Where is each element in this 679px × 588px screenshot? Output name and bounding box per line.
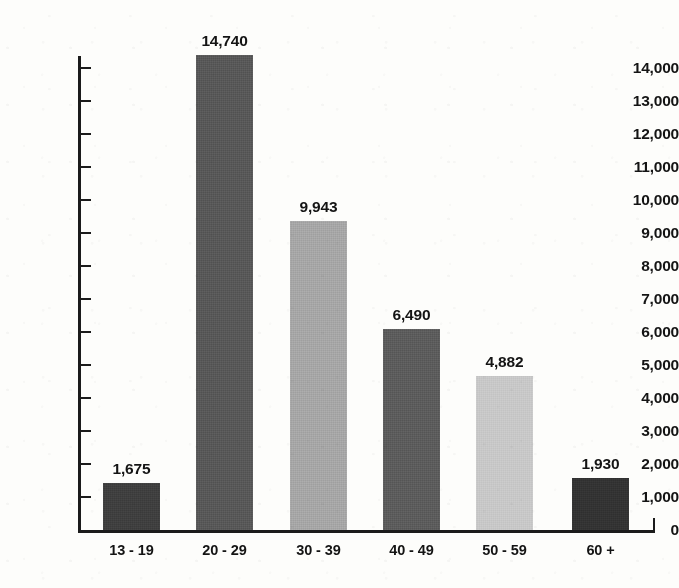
bar-value-label: 14,740	[174, 32, 275, 50]
y-axis-tick-label: 3,000	[609, 422, 679, 440]
y-axis-tick	[80, 265, 91, 267]
y-axis-tick	[80, 298, 91, 300]
bar-texture	[572, 478, 629, 530]
y-axis-tick-label: 9,000	[609, 224, 679, 242]
bar-chart: 01,0002,0003,0004,0005,0006,0007,0008,00…	[0, 0, 679, 588]
bar-texture	[476, 376, 533, 530]
y-axis-tick	[80, 331, 91, 333]
y-axis-tick	[80, 430, 91, 432]
y-axis-tick-label: 7,000	[609, 290, 679, 308]
y-axis-tick	[80, 166, 91, 168]
y-axis-tick	[80, 232, 91, 234]
bar-texture	[103, 483, 160, 530]
y-axis-tick	[80, 364, 91, 366]
y-axis-tick-label: 4,000	[609, 389, 679, 407]
bar-value-label: 1,675	[81, 460, 182, 478]
x-axis-category-label: 60 +	[546, 542, 655, 558]
bar[interactable]	[290, 221, 347, 530]
y-axis-tick	[80, 199, 91, 201]
bar[interactable]	[196, 55, 253, 530]
y-axis-tick	[80, 100, 91, 102]
y-axis-tick	[80, 397, 91, 399]
y-axis-tick	[80, 496, 91, 498]
bar[interactable]	[103, 483, 160, 530]
y-axis-tick-label: 5,000	[609, 356, 679, 374]
y-axis-tick-label: 11,000	[609, 158, 679, 176]
y-axis-tick	[80, 67, 91, 69]
bar-value-label: 6,490	[361, 306, 462, 324]
bar-texture	[196, 55, 253, 530]
bar-texture	[383, 329, 440, 530]
y-axis-tick-label: 8,000	[609, 257, 679, 275]
x-axis-line	[78, 530, 655, 533]
x-axis-category-label: 20 - 29	[170, 542, 279, 558]
plot-area: 01,0002,0003,0004,0005,0006,0007,0008,00…	[0, 0, 679, 588]
x-axis-category-label: 50 - 59	[450, 542, 559, 558]
bar[interactable]	[476, 376, 533, 530]
bar[interactable]	[383, 329, 440, 530]
bar[interactable]	[572, 478, 629, 530]
y-axis-tick-label: 10,000	[609, 191, 679, 209]
y-axis-tick-label: 12,000	[609, 125, 679, 143]
bar-texture	[290, 221, 347, 530]
y-axis-tick-label: 6,000	[609, 323, 679, 341]
bar-value-label: 4,882	[454, 353, 555, 371]
y-axis-tick-label: 14,000	[609, 59, 679, 77]
y-axis-tick-label: 13,000	[609, 92, 679, 110]
y-axis-tick	[80, 133, 91, 135]
bar-value-label: 9,943	[268, 198, 369, 216]
bar-value-label: 1,930	[550, 455, 651, 473]
